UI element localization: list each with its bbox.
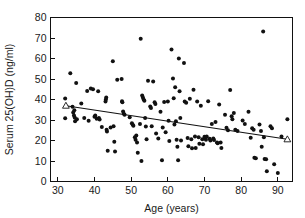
data-point <box>82 116 86 120</box>
data-point <box>201 142 205 146</box>
data-point <box>136 151 140 155</box>
data-point <box>153 102 157 106</box>
x-tick-label: 40 <box>89 184 101 196</box>
plot-canvas: 01020304050607080 30405060708090 Age (ye… <box>0 0 305 218</box>
data-point <box>63 116 67 120</box>
endpoint-triangle-marker <box>63 102 70 108</box>
y-tick-label: 80 <box>35 11 47 23</box>
data-point <box>105 129 109 133</box>
data-point <box>241 118 245 122</box>
data-point <box>151 79 155 83</box>
data-point <box>75 117 79 121</box>
scatter-chart-figure: 01020304050607080 30405060708090 Age (ye… <box>0 0 305 218</box>
data-point <box>184 101 188 105</box>
y-tick-marks <box>51 18 56 182</box>
data-point <box>68 71 72 75</box>
data-point <box>115 78 119 82</box>
data-point <box>139 159 143 163</box>
data-point <box>175 138 179 142</box>
data-point <box>178 89 182 93</box>
data-point <box>145 137 149 141</box>
y-tick-label: 50 <box>35 73 47 85</box>
data-point <box>112 140 116 144</box>
data-point <box>228 88 232 92</box>
data-point <box>214 120 218 124</box>
data-point <box>159 110 163 114</box>
x-tick-label: 80 <box>235 184 247 196</box>
data-point <box>178 116 182 120</box>
data-point <box>193 134 197 138</box>
data-point <box>197 135 201 139</box>
data-point <box>134 134 138 138</box>
data-point <box>74 81 78 85</box>
y-tick-label: 60 <box>35 52 47 64</box>
x-axis-title: Age (years) <box>144 202 198 214</box>
data-point-group <box>63 29 289 174</box>
x-tick-label: 60 <box>162 184 174 196</box>
y-tick-label: 20 <box>35 134 47 146</box>
data-point <box>161 125 165 129</box>
data-point <box>254 156 258 160</box>
data-point <box>173 85 177 89</box>
data-point <box>120 77 124 81</box>
data-point <box>210 122 214 126</box>
data-point <box>219 146 223 150</box>
data-point <box>186 144 190 148</box>
data-point <box>85 89 89 93</box>
data-point <box>144 125 148 129</box>
data-point <box>219 141 223 145</box>
y-axis-title: Serum 25(OH)D (ng/ml) <box>3 44 15 155</box>
data-point <box>186 136 190 140</box>
data-point <box>63 96 67 100</box>
data-point <box>265 169 269 173</box>
y-tick-label: 30 <box>35 114 47 126</box>
data-point <box>96 89 100 93</box>
data-point <box>111 59 115 63</box>
data-point <box>194 146 198 150</box>
data-point <box>188 97 192 101</box>
y-tick-labels: 01020304050607080 <box>35 11 47 187</box>
data-point <box>258 123 262 127</box>
data-point <box>197 142 201 146</box>
data-point <box>138 122 142 126</box>
data-point <box>87 119 91 123</box>
data-point <box>270 126 274 130</box>
data-point <box>230 117 234 121</box>
data-point <box>146 79 150 83</box>
y-tick-label: 10 <box>35 155 47 167</box>
data-point <box>217 102 221 106</box>
data-point <box>177 57 181 61</box>
data-point <box>72 108 76 112</box>
data-point <box>100 125 104 129</box>
data-point <box>162 100 166 104</box>
x-tick-label: 70 <box>199 184 211 196</box>
data-point <box>223 113 227 117</box>
data-point <box>98 118 102 122</box>
x-tick-marks <box>58 177 278 182</box>
data-point <box>142 99 146 103</box>
data-point <box>166 100 170 104</box>
data-point <box>259 129 263 133</box>
data-point <box>179 139 183 143</box>
data-point <box>135 141 139 145</box>
data-point <box>156 136 160 140</box>
data-point <box>176 158 180 162</box>
data-point <box>243 122 247 126</box>
regression-line <box>66 106 287 140</box>
data-point <box>189 137 193 141</box>
data-point <box>172 96 176 100</box>
data-point <box>195 100 199 104</box>
data-point <box>79 102 83 106</box>
data-point <box>260 145 264 149</box>
data-point <box>164 130 168 134</box>
data-point <box>91 87 95 91</box>
data-point <box>131 124 135 128</box>
data-point <box>272 162 276 166</box>
data-point <box>285 117 289 121</box>
data-point <box>104 95 108 99</box>
data-point <box>120 100 124 104</box>
data-point <box>170 47 174 51</box>
data-point <box>206 99 210 103</box>
data-point <box>171 77 175 81</box>
y-tick-label: 70 <box>35 32 47 44</box>
